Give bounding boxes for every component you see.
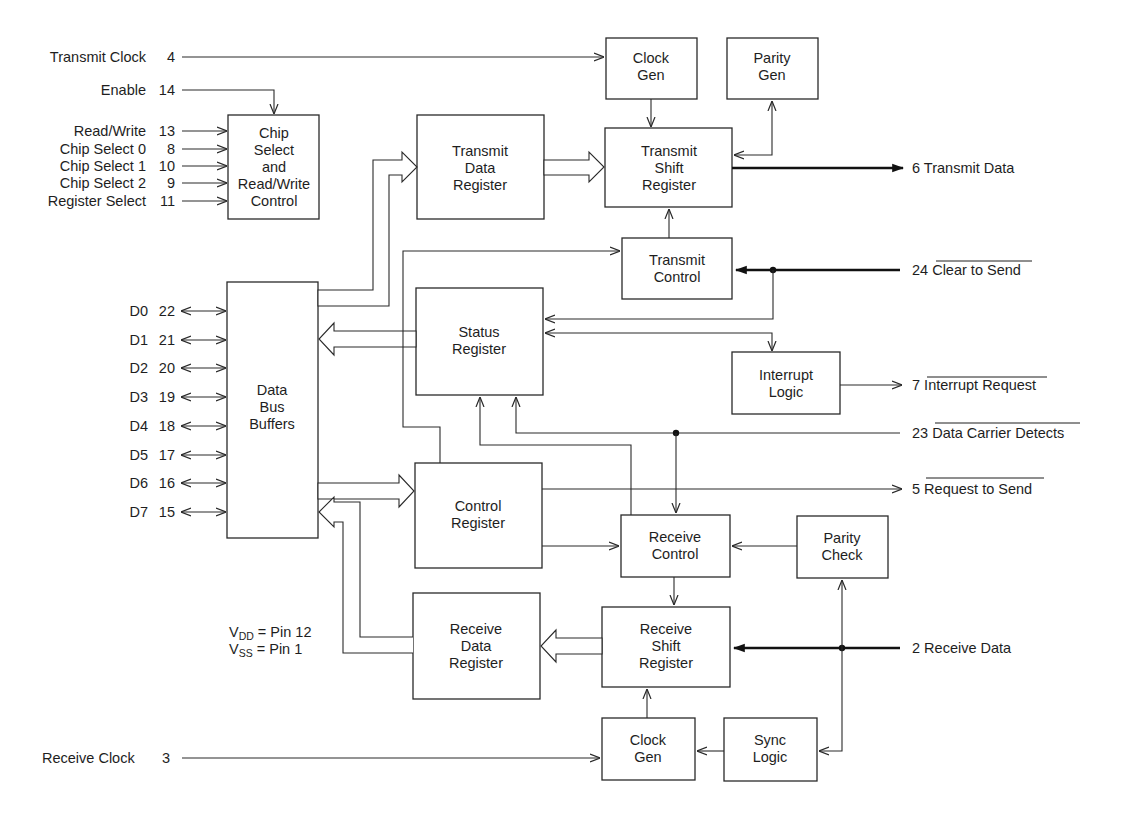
pin-name: Chip Select 2 xyxy=(60,175,146,191)
block-label: Control xyxy=(654,269,701,285)
pin-name: Receive Clock xyxy=(42,750,135,766)
block-label: Data xyxy=(461,638,493,654)
transmit-data-register-block: Transmit Data Register xyxy=(417,115,544,219)
block-label: Gen xyxy=(637,67,664,83)
block-label: Check xyxy=(821,547,863,563)
receive-control-block: Receive Control xyxy=(621,515,730,577)
acia-block-diagram: Clock Gen Parity Gen Chip Select and Rea… xyxy=(0,0,1121,815)
pin-name: D3 xyxy=(129,389,148,405)
pin-number: 19 xyxy=(159,389,175,405)
block-label: Clock xyxy=(630,732,667,748)
block-label: Register xyxy=(449,655,503,671)
pin-name: D1 xyxy=(129,332,148,348)
pin-interrupt-request: 7 Interrupt Request xyxy=(912,377,1047,393)
pin-clear-to-send: 24 Clear to Send xyxy=(912,261,1032,278)
block-label: Data xyxy=(465,160,497,176)
transmit-control-block: Transmit Control xyxy=(622,238,732,299)
pin-number: 15 xyxy=(159,504,175,520)
pin-number: 21 xyxy=(159,332,175,348)
block-label: Register xyxy=(642,177,696,193)
interrupt-logic-block: Interrupt Logic xyxy=(732,352,840,414)
transmit-shift-register-block: Transmit Shift Register xyxy=(605,128,732,207)
block-label: Gen xyxy=(634,749,661,765)
block-label: Logic xyxy=(753,749,788,765)
block-label: Logic xyxy=(769,384,804,400)
block-label: Read/Write xyxy=(238,176,310,192)
pin-label: 7 Interrupt Request xyxy=(912,377,1036,393)
pin-number: 10 xyxy=(159,158,175,174)
block-label: Control xyxy=(251,193,298,209)
pin-number: 22 xyxy=(159,303,175,319)
block-label: Receive xyxy=(450,621,502,637)
block-label: Sync xyxy=(754,732,786,748)
block-label: Clock xyxy=(633,50,670,66)
pin-number: 3 xyxy=(162,750,170,766)
receive-shift-register-block: Receive Shift Register xyxy=(602,607,730,687)
status-register-block: Status Register xyxy=(416,288,543,395)
pin-name: D2 xyxy=(129,360,148,376)
pin-number: 8 xyxy=(167,141,175,157)
pin-transmit-clock: Transmit Clock 4 xyxy=(50,49,604,65)
data-bus-buffers-block: Data Bus Buffers xyxy=(227,282,318,538)
block-label: and xyxy=(262,159,286,175)
vdd-label: VDD = Pin 12 xyxy=(229,624,311,642)
pin-name: D0 xyxy=(129,303,148,319)
pin-label: 6 Transmit Data xyxy=(912,160,1015,176)
block-label: Transmit xyxy=(649,252,705,268)
pin-number: 14 xyxy=(159,82,175,98)
pin-name: D6 xyxy=(129,475,148,491)
receive-data-register-block: Receive Data Register xyxy=(413,593,540,699)
block-label: Register xyxy=(453,177,507,193)
block-label: Status xyxy=(458,324,499,340)
control-register-block: Control Register xyxy=(415,463,542,568)
block-label: Data xyxy=(257,382,289,398)
control-input-pins: Read/Write 13 Chip Select 0 8 Chip Selec… xyxy=(48,123,227,209)
sync-logic-block: Sync Logic xyxy=(724,718,817,781)
pin-name: Enable xyxy=(101,82,146,98)
block-label: Register xyxy=(639,655,693,671)
block-label: Receive xyxy=(649,529,701,545)
pin-name: Chip Select 1 xyxy=(60,158,146,174)
block-label: Interrupt xyxy=(759,367,813,383)
block-label: Transmit xyxy=(452,143,508,159)
block-label: Gen xyxy=(758,67,785,83)
block-label: Register xyxy=(452,341,506,357)
pin-data-carrier-detect: 23 Data Carrier Detects xyxy=(912,423,1080,441)
pin-label: 2 Receive Data xyxy=(912,640,1012,656)
pin-name: D4 xyxy=(129,418,148,434)
block-label: Shift xyxy=(654,160,683,176)
block-label: Bus xyxy=(260,399,285,415)
block-label: Parity xyxy=(823,530,861,546)
pin-enable: Enable 14 xyxy=(101,82,274,114)
pin-number: 4 xyxy=(167,49,175,65)
clock-gen-tx-block: Clock Gen xyxy=(606,38,697,99)
pin-receive-data: 2 Receive Data xyxy=(912,640,1012,656)
chip-select-rw-control-block: Chip Select and Read/Write Control xyxy=(228,115,319,219)
pin-label: 24 Clear to Send xyxy=(912,262,1021,278)
pin-label: 5 Request to Send xyxy=(912,481,1032,497)
block-label: Select xyxy=(254,142,294,158)
block-label: Control xyxy=(455,498,502,514)
vss-label: VSS = Pin 1 xyxy=(229,641,302,659)
block-label: Transmit xyxy=(641,143,697,159)
block-label: Register xyxy=(451,515,505,531)
pin-number: 17 xyxy=(159,447,175,463)
pin-name: Read/Write xyxy=(74,123,146,139)
power-pins-note: VDD = Pin 12 VSS = Pin 1 xyxy=(229,624,311,659)
pin-number: 20 xyxy=(159,360,175,376)
clock-gen-rx-block: Clock Gen xyxy=(602,718,695,780)
pin-name: D7 xyxy=(129,504,148,520)
pin-name: D5 xyxy=(129,447,148,463)
parity-gen-block: Parity Gen xyxy=(727,38,818,99)
pin-request-to-send: 5 Request to Send xyxy=(912,478,1044,497)
parity-check-block: Parity Check xyxy=(797,516,888,578)
data-bus-pins: D0 22 D1 21 D2 20 D3 19 D4 18 D5 17 D6 1… xyxy=(129,303,226,520)
pin-number: 13 xyxy=(159,123,175,139)
pin-transmit-data: 6 Transmit Data xyxy=(912,160,1015,176)
block-label: Buffers xyxy=(249,416,295,432)
pin-name: Register Select xyxy=(48,193,146,209)
pin-receive-clock: Receive Clock 3 xyxy=(42,750,600,766)
block-label: Shift xyxy=(651,638,680,654)
pin-label: 23 Data Carrier Detects xyxy=(912,425,1064,441)
pin-number: 11 xyxy=(160,193,175,209)
